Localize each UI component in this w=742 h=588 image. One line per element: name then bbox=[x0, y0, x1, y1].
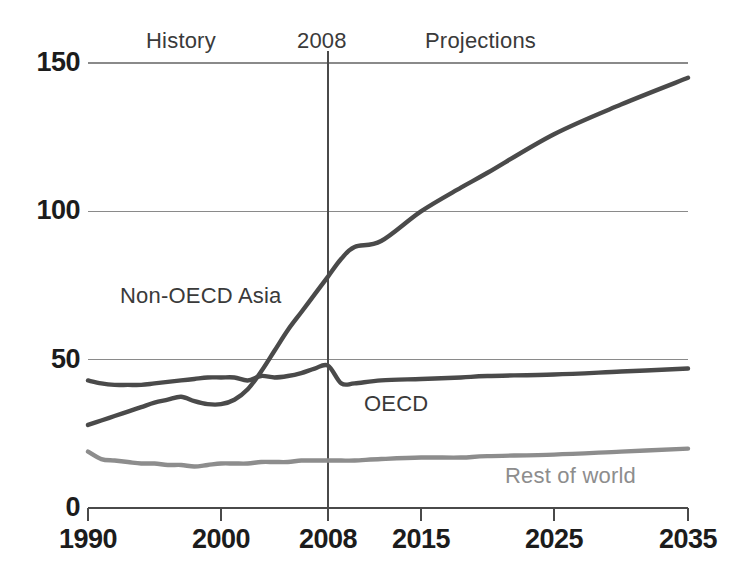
x-tick-label-1990: 1990 bbox=[33, 524, 143, 555]
x-tick-label-2000: 2000 bbox=[166, 524, 276, 555]
y-tick-label-50: 50 bbox=[8, 344, 80, 375]
y-tick-label-100: 100 bbox=[8, 195, 80, 226]
gridlines-group bbox=[88, 63, 688, 360]
annotation-projections: Projections bbox=[425, 28, 536, 54]
x-tick-label-2035: 2035 bbox=[633, 524, 742, 555]
series-label-oecd: OECD bbox=[364, 391, 428, 417]
x-tick-label-2025: 2025 bbox=[499, 524, 609, 555]
line-chart-canvas bbox=[0, 0, 742, 588]
series-label-rest-of-world: Rest of world bbox=[505, 463, 636, 489]
x-tick-label-2015: 2015 bbox=[366, 524, 476, 555]
series-label-non-oecd-asia: Non-OECD Asia bbox=[120, 283, 282, 309]
axes-group bbox=[88, 508, 688, 521]
annotation-history: History bbox=[146, 28, 216, 54]
y-tick-label-0: 0 bbox=[8, 492, 80, 523]
series-line-oecd bbox=[88, 365, 688, 385]
y-tick-label-150: 150 bbox=[8, 47, 80, 78]
annotation-divider-year: 2008 bbox=[297, 28, 347, 54]
chart-container: 150 100 50 0 1990 2000 2008 2015 2025 20… bbox=[0, 0, 742, 588]
